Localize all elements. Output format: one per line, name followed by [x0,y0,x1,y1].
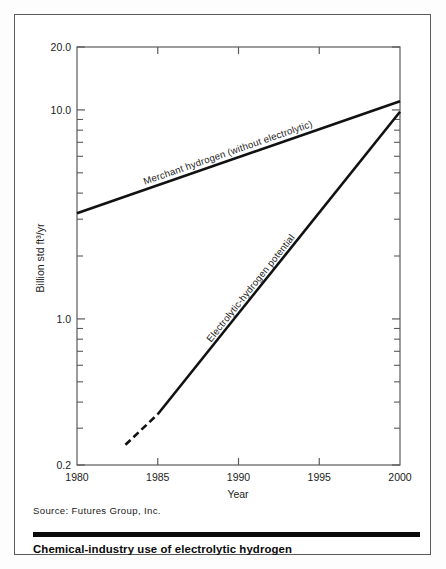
series-line-dashed [125,414,157,445]
y-axis-ticks [77,47,400,465]
caption-divider-rule [33,532,420,537]
label-electrolytic-hydrogen: Electrolytic-hydrogen potential [204,232,297,344]
figure-container: 0.21.010.020.0 19801985199019952000 Year… [0,0,446,569]
x-tick-label: 2000 [388,471,412,483]
series-line [77,101,400,213]
x-tick-label: 1980 [65,471,89,483]
y-tick-label: 1.0 [56,313,71,325]
label-merchant-hydrogen: Merchant hydrogen (without electrolytic) [142,118,314,187]
series-inline-labels: Merchant hydrogen (without electrolytic)… [142,118,314,344]
y-axis-title: Billion std ft³/yr [34,223,46,292]
source-note: Source: Futures Group, Inc. [33,505,161,516]
series-line-solid [158,112,400,414]
x-tick-label: 1990 [227,471,251,483]
figure-caption: Chemical-industry use of electrolytic hy… [33,543,292,555]
y-tick-label: 10.0 [51,104,72,116]
x-axis-ticks [158,47,320,465]
y-tick-label: 0.2 [56,459,71,471]
x-axis-labels: 19801985199019952000 [65,471,412,483]
y-tick-label: 20.0 [51,41,72,53]
x-tick-label: 1995 [308,471,332,483]
x-axis-title: Year [227,488,249,500]
plot-frame [77,47,400,465]
y-axis-labels: 0.21.010.020.0 [51,41,72,471]
x-tick-label: 1985 [146,471,170,483]
chart-plot: 0.21.010.020.0 19801985199019952000 Year… [0,0,446,569]
